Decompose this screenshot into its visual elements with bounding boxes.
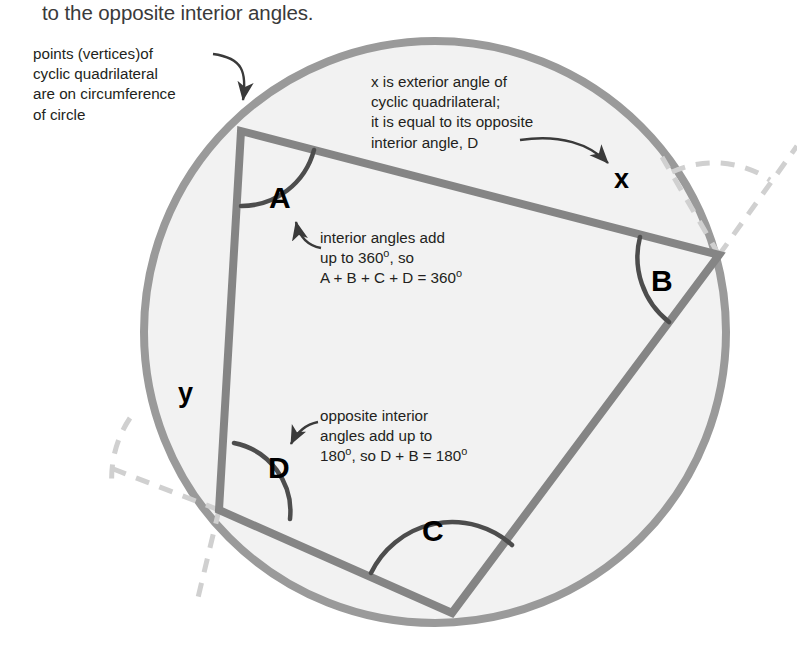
callout-opposite-sum-text: opposite interiorangles add up to180o, s… xyxy=(320,406,467,467)
callout-interior-sum-text: interior angles addup to 360o, soA + B +… xyxy=(320,228,462,289)
opposite-sum-line3-mid: , so D + B = 180 xyxy=(351,447,461,464)
interior-sum-line2-pre: up to 360 xyxy=(320,249,383,266)
interior-sum-line2-post: , so xyxy=(389,249,413,266)
angle-label-a: A xyxy=(269,181,291,215)
opposite-sum-line3-pre: 180 xyxy=(320,447,345,464)
page-heading: to the opposite interior angles. xyxy=(42,0,313,27)
diagram-page: to the opposite interior angles. points … xyxy=(0,0,797,647)
opposite-sum-line1: opposite interior xyxy=(320,407,428,424)
angle-label-d: D xyxy=(268,451,290,485)
opposite-sum-line2: angles add up to xyxy=(320,427,432,444)
degree-symbol: o xyxy=(461,445,467,457)
angle-label-b: B xyxy=(651,264,673,298)
angle-label-y: y xyxy=(178,378,193,409)
arrow-vertices xyxy=(213,54,244,100)
interior-sum-line1: interior angles add xyxy=(320,229,445,246)
degree-symbol: o xyxy=(456,267,462,279)
interior-sum-line3-pre: A + B + C + D = 360 xyxy=(320,269,456,286)
callout-exterior-angle-text: x is exterior angle of cyclic quadrilate… xyxy=(371,72,533,153)
angle-label-x: x xyxy=(614,164,629,195)
angle-label-c: C xyxy=(422,514,444,548)
callout-vertices-text: points (vertices)of cyclic quadrilateral… xyxy=(33,44,176,125)
